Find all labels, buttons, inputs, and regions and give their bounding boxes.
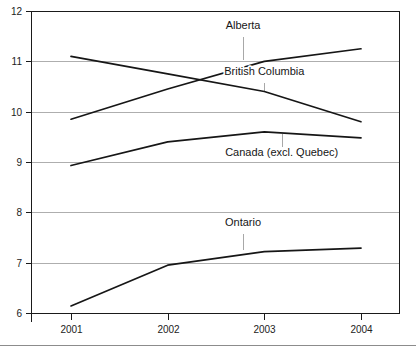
y-axis-label-12: 12 <box>11 6 23 17</box>
y-axis-ticks: 1211109876 <box>11 6 31 319</box>
x-axis-label-2003: 2003 <box>253 324 276 335</box>
y-axis-label-6: 6 <box>16 308 22 319</box>
series-label-british-columbia: British Columbia <box>224 65 305 77</box>
series-label-alberta: Alberta <box>226 19 262 31</box>
series-label-ontario: Ontario <box>225 216 261 228</box>
chart-container: 1211109876 2001200220032004 British Colu… <box>0 0 416 352</box>
x-axis-label-2001: 2001 <box>60 324 83 335</box>
y-axis-label-8: 8 <box>16 207 22 218</box>
series-label-canada-excl-quebec: Canada (excl. Quebec) <box>225 146 338 158</box>
y-axis-label-11: 11 <box>12 56 23 67</box>
y-axis-label-7: 7 <box>16 258 22 269</box>
x-axis-ticks: 2001200220032004 <box>60 313 373 335</box>
y-axis-label-10: 10 <box>11 107 23 118</box>
y-axis-label-9: 9 <box>16 157 22 168</box>
x-axis-label-2004: 2004 <box>350 324 373 335</box>
line-chart: 1211109876 2001200220032004 British Colu… <box>0 0 416 352</box>
x-axis-label-2002: 2002 <box>157 324 180 335</box>
